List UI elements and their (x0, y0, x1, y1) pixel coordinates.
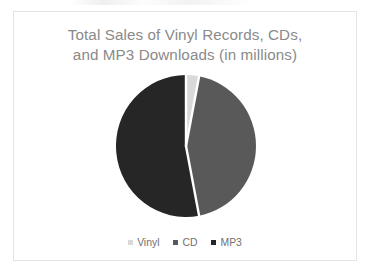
pie-chart-svg (115, 74, 257, 218)
legend-swatch-icon-vinyl (128, 240, 133, 245)
pie-slice-cd[interactable] (186, 76, 256, 215)
legend-label-vinyl: Vinyl (137, 237, 159, 248)
legend-swatch-icon-cd (173, 240, 178, 245)
legend-item-mp3[interactable]: MP3 (211, 237, 241, 248)
legend-swatch-icon-mp3 (211, 240, 216, 245)
legend-item-cd[interactable]: CD (173, 237, 197, 248)
pie-chart-plot-area (14, 12, 356, 260)
chart-legend: Vinyl CD MP3 (14, 237, 356, 248)
legend-item-vinyl[interactable]: Vinyl (128, 237, 159, 248)
legend-label-cd: CD (182, 237, 197, 248)
legend-label-mp3: MP3 (220, 237, 241, 248)
chart-container: Total Sales of Vinyl Records, CDs, and M… (13, 11, 357, 261)
scan-artifact (70, 0, 250, 5)
